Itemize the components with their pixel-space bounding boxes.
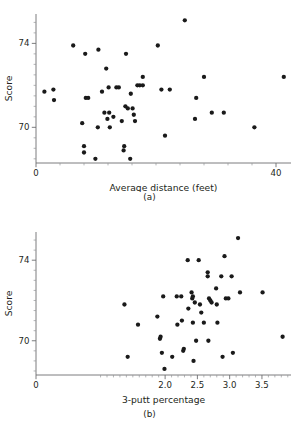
data-point	[197, 258, 201, 262]
data-point	[160, 351, 164, 355]
x-axis-tick-label: 0	[33, 168, 38, 178]
data-point	[206, 274, 210, 278]
data-point	[219, 274, 223, 278]
data-point	[209, 300, 213, 304]
data-point	[120, 119, 124, 123]
data-point	[158, 335, 162, 339]
data-point	[108, 125, 112, 129]
data-point	[159, 87, 163, 91]
data-point	[180, 318, 184, 322]
data-point	[51, 87, 55, 91]
data-point	[170, 355, 174, 359]
data-point	[202, 75, 206, 79]
data-point	[226, 296, 230, 300]
data-point	[107, 110, 111, 114]
data-point	[186, 258, 190, 262]
data-point	[183, 18, 187, 22]
data-point	[206, 339, 210, 343]
data-point	[189, 290, 193, 294]
data-point	[102, 110, 106, 114]
scatter-plot-b-canvas: 707402.02.53.03.53-putt percentageScore	[0, 216, 299, 406]
data-point	[214, 286, 218, 290]
data-point	[182, 347, 186, 351]
x-axis-tick-label: 3.5	[255, 380, 269, 390]
x-axis-title: Average distance (feet)	[110, 182, 218, 192]
data-point	[111, 115, 115, 119]
data-point	[121, 148, 125, 152]
data-point	[193, 300, 197, 304]
data-point	[128, 157, 132, 161]
data-point	[191, 294, 195, 298]
y-axis-title: Score	[3, 290, 14, 316]
data-point	[104, 66, 108, 70]
data-point	[105, 117, 109, 121]
data-point	[83, 52, 87, 56]
data-point	[193, 117, 197, 121]
data-point	[129, 92, 133, 96]
data-point	[42, 90, 46, 94]
x-axis-title: 3-putt percentage	[122, 394, 206, 405]
data-point	[222, 254, 226, 258]
data-point	[96, 48, 100, 52]
data-point	[220, 355, 224, 359]
data-point	[260, 290, 264, 294]
data-point	[96, 125, 100, 129]
data-point	[179, 294, 183, 298]
data-point	[175, 294, 179, 298]
data-point	[252, 125, 256, 129]
data-point	[133, 119, 137, 123]
panel-label-b: (b)	[0, 409, 299, 419]
data-point	[93, 157, 97, 161]
data-point	[156, 43, 160, 47]
data-point	[86, 96, 90, 100]
x-axis-tick-label: 2.5	[191, 380, 205, 390]
data-point	[194, 96, 198, 100]
data-point	[215, 320, 219, 324]
data-point	[202, 320, 206, 324]
data-point	[198, 302, 202, 306]
data-point	[124, 52, 128, 56]
data-point	[82, 150, 86, 154]
data-point	[141, 75, 145, 79]
x-axis-tick-label: 3.0	[223, 380, 237, 390]
data-point	[163, 134, 167, 138]
x-axis-tick-label: 0	[33, 380, 38, 390]
data-point	[191, 359, 195, 363]
x-axis-tick-label: 40	[271, 168, 282, 178]
data-point	[161, 294, 165, 298]
data-point	[122, 302, 126, 306]
scatter-panel-b: 707402.02.53.03.53-putt percentageScore	[0, 216, 299, 432]
data-point	[130, 106, 134, 110]
data-point	[186, 306, 190, 310]
data-point	[126, 355, 130, 359]
data-point	[210, 110, 214, 114]
data-point	[231, 351, 235, 355]
data-point	[155, 314, 159, 318]
data-point	[132, 113, 136, 117]
data-point	[106, 85, 110, 89]
data-point	[82, 144, 86, 148]
data-point	[236, 236, 240, 240]
data-point	[175, 323, 179, 327]
panel-label-a: (a)	[0, 192, 299, 202]
data-point	[141, 83, 145, 87]
data-point	[162, 367, 166, 371]
data-point	[206, 270, 210, 274]
data-point	[117, 85, 121, 89]
data-point	[199, 310, 203, 314]
data-point	[229, 274, 233, 278]
y-axis-tick-label: 74	[19, 255, 30, 265]
data-point	[71, 43, 75, 47]
x-axis-tick-label: 2.0	[158, 380, 172, 390]
scatter-plot-a-canvas: 7074040Average distance (feet)Score	[0, 0, 299, 192]
data-point	[222, 110, 226, 114]
data-point	[282, 75, 286, 79]
data-point	[52, 98, 56, 102]
scatter-panel-a: 7074040Average distance (feet)Score	[0, 0, 299, 216]
y-axis-tick-label: 70	[19, 336, 30, 346]
y-axis-title: Score	[3, 75, 14, 101]
y-axis-tick-label: 70	[19, 122, 30, 132]
data-point	[168, 87, 172, 91]
data-point	[194, 339, 198, 343]
data-point	[100, 90, 104, 94]
